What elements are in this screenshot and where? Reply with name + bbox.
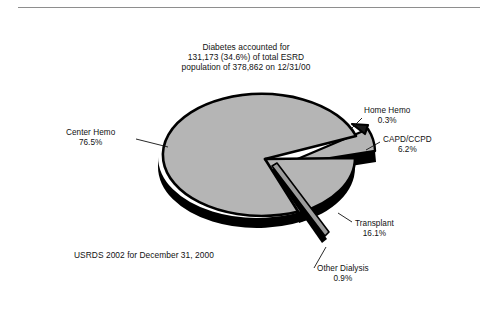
slice-label-other-dialysis: Other Dialysis 0.9%: [317, 264, 369, 284]
slice-label-home-hemo: Home Hemo 0.3%: [364, 106, 410, 126]
slice-label-home-hemo-name: Home Hemo: [364, 106, 410, 115]
slice-label-transplant-name: Transplant: [355, 219, 394, 228]
slice-label-center-hemo-pct: 76.5%: [66, 138, 115, 148]
source-note: USRDS 2002 for December 31, 2000: [74, 250, 214, 260]
slice-label-capd-ccpd: CAPD/CCPD 6.2%: [383, 135, 432, 155]
slice-label-center-hemo: Center Hemo 76.5%: [66, 128, 115, 148]
slice-label-transplant-pct: 16.1%: [355, 229, 394, 239]
slice-label-capd-ccpd-name: CAPD/CCPD: [383, 135, 432, 144]
chart-page: Diabetes accounted for 131,173 (34.6%) o…: [0, 0, 492, 309]
leader-transplant: [338, 213, 352, 222]
slice-label-transplant: Transplant 16.1%: [355, 219, 394, 239]
slice-label-other-dialysis-pct: 0.9%: [317, 274, 369, 284]
slice-label-other-dialysis-name: Other Dialysis: [317, 264, 369, 273]
slice-label-home-hemo-pct: 0.3%: [364, 116, 410, 126]
slice-label-capd-ccpd-pct: 6.2%: [383, 145, 432, 155]
slice-label-center-hemo-name: Center Hemo: [66, 128, 115, 137]
leader-center-hemo: [136, 139, 168, 147]
